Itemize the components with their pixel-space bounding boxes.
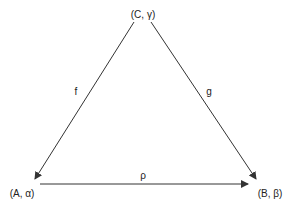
node-c-label: (C, γ) xyxy=(131,10,155,20)
edge-f-arrow xyxy=(35,22,134,179)
node-a-label: (A, α) xyxy=(10,189,35,199)
node-b-label: (B, β) xyxy=(258,189,283,199)
edge-rho-label: ρ xyxy=(140,171,146,181)
edge-f-label: f xyxy=(75,87,78,97)
edge-g-label: g xyxy=(206,87,212,97)
diagram-canvas xyxy=(0,0,290,214)
edge-g-arrow xyxy=(151,22,256,179)
